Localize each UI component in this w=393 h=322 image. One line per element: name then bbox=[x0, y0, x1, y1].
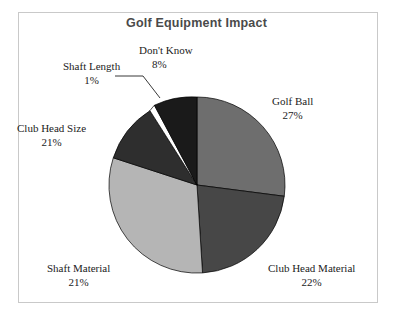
pie-label-shaft-material: Shaft Material 21% bbox=[47, 262, 110, 290]
pie-label-shaft-length-value: 1% bbox=[63, 74, 120, 88]
pie-label-dont-know-name: Don't Know bbox=[139, 44, 193, 58]
pie-label-dont-know: Don't Know 8% bbox=[139, 44, 193, 72]
pie-label-golf-ball-name: Golf Ball bbox=[272, 95, 313, 109]
pie-label-shaft-material-name: Shaft Material bbox=[47, 262, 110, 276]
pie-label-club-head-size: Club Head Size 21% bbox=[17, 122, 86, 150]
pie-label-club-head-size-value: 21% bbox=[17, 136, 86, 150]
pie-label-golf-ball: Golf Ball 27% bbox=[272, 95, 313, 123]
pie-label-club-head-material-value: 22% bbox=[268, 276, 355, 290]
shaft-length-leader-line bbox=[115, 76, 160, 98]
pie-label-dont-know-value: 8% bbox=[139, 58, 193, 72]
pie-label-club-head-material-name: Club Head Material bbox=[268, 262, 355, 276]
pie-slice-club-head-material[interactable] bbox=[197, 185, 284, 273]
pie-label-club-head-size-name: Club Head Size bbox=[17, 122, 86, 136]
pie-label-golf-ball-value: 27% bbox=[272, 109, 313, 123]
pie-label-shaft-length: Shaft Length 1% bbox=[63, 60, 120, 88]
pie-label-club-head-material: Club Head Material 22% bbox=[268, 262, 355, 290]
pie-label-shaft-material-value: 21% bbox=[47, 276, 110, 290]
pie-label-shaft-length-name: Shaft Length bbox=[63, 60, 120, 74]
figure-root: Golf Equipment Impact Golf Ball 27% Club… bbox=[0, 0, 393, 322]
